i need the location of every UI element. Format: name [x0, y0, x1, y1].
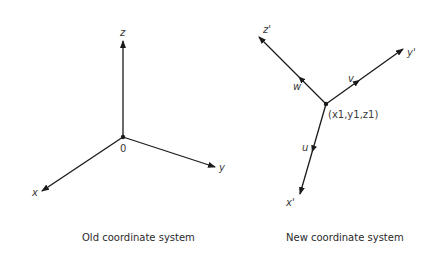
w-direction-arrow [301, 79, 303, 81]
old-origin-dot [121, 135, 125, 139]
new-origin-label: (x1,y1,z1) [328, 109, 378, 120]
w-label: w [293, 81, 302, 92]
old-system-caption: Old coordinate system [82, 232, 195, 243]
old-y-label: y [218, 162, 226, 173]
old-z-label: z [119, 27, 126, 38]
v-direction-arrow [354, 82, 357, 84]
coordinate-diagram: z x y 0 Old coordinate system z' y' x' w… [0, 0, 439, 266]
old-x-label: x [31, 187, 38, 198]
new-z-label: z' [262, 24, 271, 35]
u-label: u [302, 142, 308, 153]
new-coordinate-system: z' y' x' w v u (x1,y1,z1) New coordinate… [259, 24, 416, 243]
old-y-axis [123, 137, 215, 167]
old-origin-label: 0 [120, 143, 126, 154]
new-y-label: y' [406, 47, 416, 58]
new-y-axis [326, 49, 403, 104]
new-system-caption: New coordinate system [286, 232, 404, 243]
new-origin-dot [324, 102, 328, 106]
new-x-label: x' [285, 197, 295, 208]
old-x-axis [42, 137, 123, 191]
old-coordinate-system: z x y 0 Old coordinate system [31, 27, 226, 243]
new-z-axis [259, 37, 326, 104]
v-label: v [348, 73, 355, 84]
